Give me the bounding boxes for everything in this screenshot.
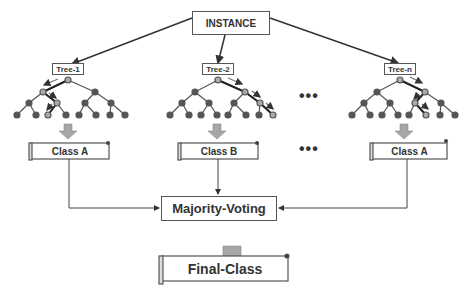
tree-1-graph [14, 77, 128, 118]
ellipsis-trees: ••• [299, 91, 319, 101]
tree-2-label-box: Tree-2 [202, 63, 234, 75]
tree-1-label-box: Tree-1 [52, 63, 84, 75]
instance-label: INSTANCE [206, 18, 256, 29]
majority-voting-label: Majority-Voting [172, 201, 266, 216]
tree-n-result: Class A [372, 143, 447, 159]
tree-1-label: Tree-1 [56, 65, 80, 74]
tree-2-graph [167, 77, 276, 118]
tree-n-label-box: Tree-n [384, 63, 416, 75]
final-class-result: Final-Class [162, 256, 288, 281]
tree-1-result-label: Class A [52, 146, 88, 157]
tree-n-result-label: Class A [391, 146, 427, 157]
ellipsis-classes: ••• [299, 144, 319, 154]
tree-2-result-label: Class B [201, 146, 238, 157]
tree-2-result: Class B [180, 143, 258, 159]
tree-2-label: Tree-2 [206, 65, 230, 74]
tree-n-graph [349, 77, 458, 118]
tree-1-result: Class A [31, 143, 109, 159]
final-class-label: Final-Class [188, 261, 263, 277]
tree-n-label: Tree-n [388, 65, 412, 74]
instance-box: INSTANCE [192, 11, 270, 35]
majority-voting-box: Majority-Voting [161, 196, 277, 221]
